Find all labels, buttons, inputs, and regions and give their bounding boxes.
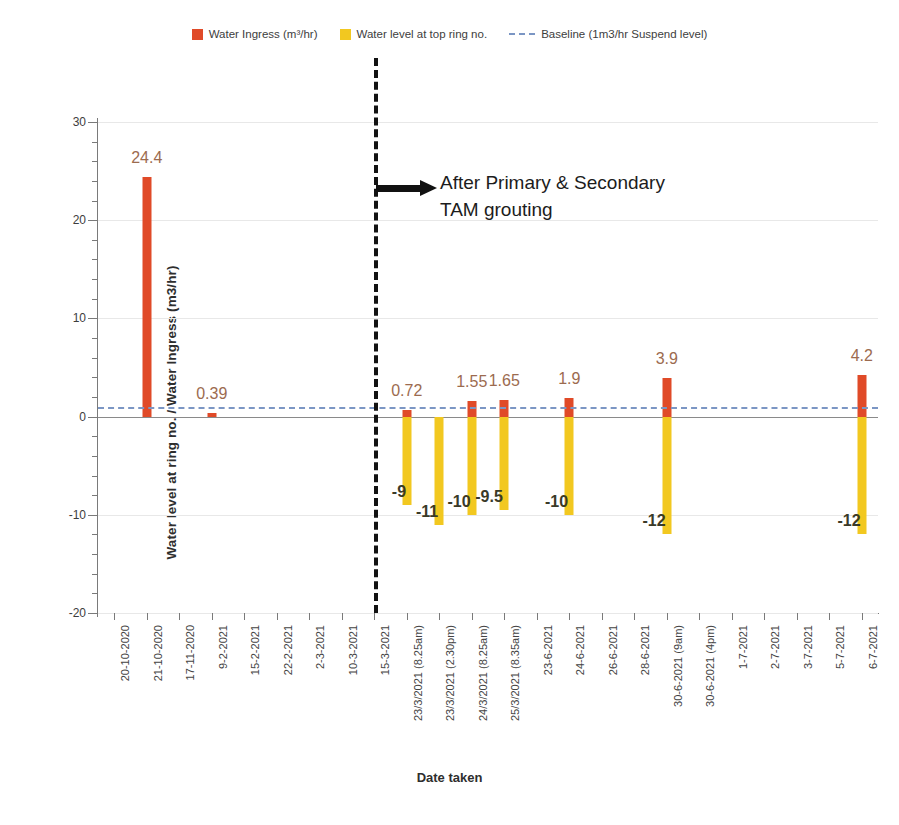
data-label: 1.9 [558,370,580,388]
x-tick [309,613,310,620]
data-label: -9 [392,483,406,501]
bar-water-ingress [142,177,151,417]
x-tick-label: 2-7-2021 [769,625,781,669]
y-tick-major [88,220,98,221]
x-tick-label: 1-7-2021 [737,625,749,669]
x-tick-label: 9-2-2021 [217,625,229,669]
x-tick-label: 21-10-2020 [152,625,164,681]
y-tick-minor [92,495,98,496]
y-tick-major [88,417,98,418]
bar-water-ingress [467,401,476,416]
x-tick [764,613,765,620]
y-tick-minor [92,201,98,202]
x-tick [277,613,278,620]
y-tick-minor [92,358,98,359]
x-tick [504,613,505,620]
grouting-divider-line [374,58,378,613]
x-tick [407,613,408,620]
x-tick-label: 3-7-2021 [802,625,814,669]
blue-dashed-line-icon [509,33,535,35]
data-label: 3.9 [656,350,678,368]
legend-item-water-level: Water level at top ring no. [340,28,488,40]
data-label: 24.4 [131,149,162,167]
x-tick [212,613,213,620]
x-tick-label: 23/3/2021 (2.30pm) [444,625,456,721]
x-tick-label: 23-6-2021 [542,625,554,675]
x-tick-label: 10-3-2021 [347,625,359,675]
data-label: -11 [416,503,438,521]
legend-label-water-level: Water level at top ring no. [357,28,488,40]
x-tick-label: 28-6-2021 [639,625,651,675]
x-tick [179,613,180,620]
bar-water-ingress [402,410,411,417]
x-tick [537,613,538,620]
x-tick [374,613,375,620]
y-tick-minor [92,397,98,398]
yellow-square-icon [340,29,351,40]
x-tick-label: 30-6-2021 (4pm) [704,625,716,707]
bar-water-ingress [207,413,216,417]
y-tick-major [88,318,98,319]
data-label: 0.72 [391,382,422,400]
y-tick-label: 30 [73,115,86,129]
data-label: -12 [642,512,665,530]
x-axis-title: Date taken [0,770,899,785]
x-tick-label: 2-3-2021 [314,625,326,669]
data-label: 1.55 [456,373,487,391]
data-label: -9.5 [475,488,503,506]
y-tick-minor [92,299,98,300]
y-tick-label: 20 [73,213,86,227]
x-tick [147,613,148,620]
x-tick-label: 15-2-2021 [249,625,261,675]
gridline [98,318,878,319]
y-tick-label: -10 [69,508,86,522]
y-tick-minor [92,534,98,535]
x-tick [114,613,115,620]
baseline-suspend-level [98,407,878,409]
y-tick-label: 0 [79,410,86,424]
x-tick-label: 20-10-2020 [119,625,131,681]
x-tick [699,613,700,620]
annotation-line-2: TAM grouting [440,197,770,224]
x-tick [602,613,603,620]
y-tick-minor [92,161,98,162]
y-tick-minor [92,338,98,339]
y-tick-major [88,122,98,123]
y-tick-major [88,515,98,516]
y-tick-minor [92,476,98,477]
x-tick [797,613,798,620]
x-tick-label: 30-6-2021 (9am) [672,625,684,707]
x-tick [569,613,570,620]
x-tick [342,613,343,620]
y-tick-minor [92,574,98,575]
y-tick-minor [92,456,98,457]
x-tick [439,613,440,620]
y-tick-minor [92,554,98,555]
y-tick-minor [92,259,98,260]
x-tick [667,613,668,620]
x-tick-label: 22-2-2021 [282,625,294,675]
x-tick [472,613,473,620]
bar-water-ingress [662,378,671,416]
x-tick-label: 15-3-2021 [379,625,391,675]
y-tick-minor [92,240,98,241]
x-tick-label: 23/3/2021 (8.25am) [412,625,424,721]
x-tick-label: 26-6-2021 [607,625,619,675]
x-tick-label: 17-11-2020 [184,625,196,680]
y-tick-minor [92,436,98,437]
x-tick [634,613,635,620]
x-tick [862,613,863,620]
zero-line [98,417,878,418]
x-tick [732,613,733,620]
y-tick-minor [92,142,98,143]
y-tick-label: -20 [69,606,86,620]
y-tick-minor [92,593,98,594]
x-tick-label: 25/3/2021 (8.35am) [509,625,521,721]
legend-label-baseline: Baseline (1m3/hr Suspend level) [541,28,707,40]
x-tick [244,613,245,620]
x-tick-label: 6-7-2021 [867,625,879,669]
grouting-annotation: After Primary & Secondary TAM grouting [440,170,770,224]
data-label: -10 [447,493,470,511]
right-arrow-icon [376,182,438,194]
gridline [98,613,878,614]
